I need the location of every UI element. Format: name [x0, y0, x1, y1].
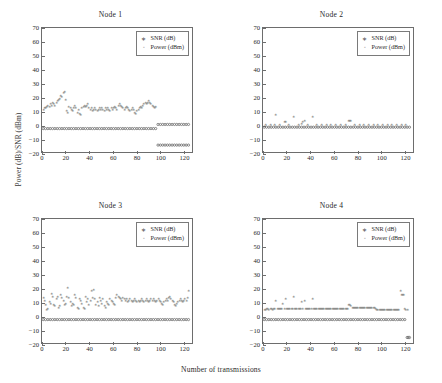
y-axis-tick-mark — [42, 233, 45, 234]
plot-legend: ∗SNR (dB)◦Power (dBm) — [357, 31, 410, 56]
x-axis-tick-mark — [263, 342, 264, 345]
x-axis-tick-label: 20 — [62, 155, 69, 162]
y-axis-tick-label: 50 — [253, 244, 260, 251]
svg-text:∗: ∗ — [274, 298, 277, 303]
y-axis-tick-mark — [42, 70, 45, 71]
svg-text:∗: ∗ — [64, 97, 67, 102]
y-axis-tick-mark — [42, 56, 45, 57]
y-axis-tick-mark — [42, 219, 45, 220]
y-axis-tick-mark — [263, 98, 266, 99]
y-axis-tick-label: 0 — [36, 314, 39, 321]
x-axis-tick-mark — [310, 342, 311, 345]
svg-text:∗: ∗ — [292, 114, 295, 119]
y-axis-tick-mark — [263, 247, 266, 248]
svg-text:∗: ∗ — [187, 288, 190, 293]
y-axis-tick-label: −10 — [29, 328, 39, 335]
x-axis-tick-label: 0 — [261, 346, 264, 353]
y-axis-tick-label: 50 — [32, 244, 39, 251]
plot-legend: ∗SNR (dB)◦Power (dBm) — [136, 222, 189, 247]
x-axis-tick-label: 60 — [331, 346, 338, 353]
svg-text:∗: ∗ — [46, 306, 49, 311]
y-axis-tick-label: −10 — [250, 328, 260, 335]
svg-text:∗: ∗ — [64, 301, 67, 306]
y-axis-tick-label: 10 — [253, 109, 260, 116]
y-axis-tick-mark — [263, 140, 266, 141]
y-axis-tick-label: 70 — [32, 25, 39, 32]
circle-marker-icon: ◦ — [361, 235, 368, 243]
x-axis-tick-mark — [89, 342, 90, 345]
y-axis-tick-label: 30 — [253, 272, 260, 279]
x-axis-tick-mark — [42, 151, 43, 154]
y-axis-tick-mark — [263, 275, 266, 276]
x-axis-tick-mark — [263, 151, 264, 154]
x-axis-tick-label: 80 — [134, 346, 141, 353]
y-axis-tick-label: 40 — [32, 67, 39, 74]
series-power — [263, 318, 411, 338]
plot-legend: ∗SNR (dB)◦Power (dBm) — [357, 222, 410, 247]
y-axis-tick-label: 60 — [253, 230, 260, 237]
legend-entry: ∗SNR (dB) — [361, 34, 405, 43]
circle-marker-icon: ◦ — [140, 44, 147, 52]
asterisk-marker-icon: ∗ — [140, 34, 147, 43]
y-axis-tick-label: 20 — [32, 95, 39, 102]
y-axis-tick-label: 20 — [253, 286, 260, 293]
x-axis-tick-mark — [405, 151, 406, 154]
y-axis-tick-label: 60 — [253, 39, 260, 46]
asterisk-marker-icon: ∗ — [140, 225, 147, 234]
legend-entry: ∗SNR (dB) — [140, 225, 184, 234]
x-axis-tick-label: 80 — [134, 155, 141, 162]
y-axis-tick-label: 40 — [253, 258, 260, 265]
y-axis-tick-label: 20 — [32, 286, 39, 293]
x-axis-tick-mark — [184, 342, 185, 345]
y-axis-tick-mark — [42, 28, 45, 29]
x-axis-tick-mark — [137, 342, 138, 345]
x-axis-tick-label: 60 — [110, 346, 117, 353]
series-power — [263, 126, 411, 128]
y-axis-tick-label: 10 — [32, 300, 39, 307]
x-axis-tick-label: 120 — [180, 155, 190, 162]
plot-panel-1: Node 1∗∗∗∗∗∗∗∗∗∗∗∗∗∗∗∗∗∗∗∗∗∗∗∗∗∗∗∗∗∗∗∗∗∗… — [0, 0, 221, 191]
y-axis-tick-mark — [263, 126, 266, 127]
asterisk-marker-icon: ∗ — [361, 34, 368, 43]
figure-container: Power (dB)/SNR (dBm) Number of transmiss… — [0, 0, 442, 383]
y-axis-tick-label: 30 — [32, 81, 39, 88]
y-axis-tick-label: −10 — [29, 137, 39, 144]
x-axis-tick-label: 120 — [401, 346, 411, 353]
y-axis-tick-label: 30 — [253, 81, 260, 88]
y-axis-tick-label: 40 — [32, 258, 39, 265]
plot-panel-3: Node 3∗∗∗∗∗∗∗∗∗∗∗∗∗∗∗∗∗∗∗∗∗∗∗∗∗∗∗∗∗∗∗∗∗∗… — [0, 191, 221, 382]
svg-text:∗: ∗ — [66, 285, 69, 290]
x-axis-tick-label: 0 — [261, 155, 264, 162]
asterisk-marker-icon: ∗ — [361, 225, 368, 234]
x-axis-tick-mark — [358, 151, 359, 154]
x-axis-tick-label: 40 — [86, 346, 93, 353]
y-axis-tick-label: −20 — [250, 342, 260, 349]
svg-text:∗: ∗ — [154, 104, 157, 109]
plot-area: ∗∗∗∗∗∗∗∗∗∗∗∗∗∗∗∗∗∗∗∗∗∗∗∗∗∗∗∗∗∗∗∗∗∗∗∗∗∗∗∗… — [262, 218, 414, 344]
y-axis-tick-mark — [263, 219, 266, 220]
x-axis-tick-label: 100 — [156, 155, 166, 162]
y-axis-tick-mark — [42, 275, 45, 276]
plot-legend: ∗SNR (dB)◦Power (dBm) — [136, 31, 189, 56]
svg-text:∗: ∗ — [186, 295, 189, 300]
x-axis-tick-mark — [334, 151, 335, 154]
svg-text:∗: ∗ — [83, 306, 86, 311]
x-axis-tick-mark — [184, 151, 185, 154]
y-axis-tick-label: 0 — [36, 123, 39, 130]
y-axis-tick-label: 20 — [253, 95, 260, 102]
legend-label: Power (dBm) — [150, 234, 184, 243]
series-snr: ∗∗∗∗∗∗∗∗∗∗∗∗∗∗∗∗∗∗∗∗∗∗∗∗∗∗∗∗∗∗∗∗∗∗∗∗∗∗∗∗… — [42, 285, 190, 312]
x-axis-tick-label: 120 — [180, 346, 190, 353]
series-power — [42, 318, 190, 320]
x-axis-tick-label: 20 — [62, 346, 69, 353]
y-axis-tick-mark — [263, 289, 266, 290]
y-axis-tick-mark — [42, 317, 45, 318]
svg-text:∗: ∗ — [292, 294, 295, 299]
svg-text:∗: ∗ — [406, 307, 409, 312]
plot-area: ∗∗∗∗∗∗∗∗∗∗∗∗∗∗∗∗∗∗∗∗∗∗∗∗∗∗∗∗∗∗∗∗∗∗∗∗∗706… — [262, 27, 414, 153]
legend-entry: ∗SNR (dB) — [361, 225, 405, 234]
legend-label: Power (dBm) — [371, 234, 405, 243]
x-axis-tick-mark — [310, 151, 311, 154]
x-axis-tick-mark — [334, 342, 335, 345]
x-axis-tick-label: 60 — [110, 155, 117, 162]
